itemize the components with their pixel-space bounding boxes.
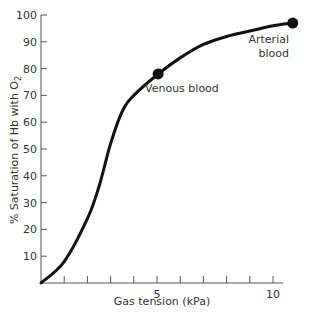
svg-text:% Saturation of Hb with O2: % Saturation of Hb with O2 — [8, 76, 23, 224]
y-tick-label: 70 — [23, 89, 37, 102]
y-tick-label: 60 — [23, 116, 37, 129]
y-tick-label: 10 — [23, 250, 37, 263]
arterial-point-marker — [287, 18, 298, 29]
y-axis-label-sub: 2 — [14, 76, 23, 81]
y-tick-label: 20 — [23, 223, 37, 236]
y-tick-label: 90 — [23, 36, 37, 49]
y-tick-label: 50 — [23, 143, 37, 156]
x-tick-label: 10 — [266, 288, 280, 301]
arterial-label-line1: Arterial — [248, 33, 289, 46]
y-tick-label: 40 — [23, 170, 37, 183]
y-tick-label: 30 — [23, 197, 37, 210]
y-tick-label: 100 — [16, 9, 37, 22]
axes — [41, 15, 283, 283]
y-tick-label: 80 — [23, 63, 37, 76]
y-axis-label: % Saturation of Hb with O2 — [8, 76, 23, 224]
x-axis-label: Gas tension (kPa) — [114, 295, 210, 308]
oxygen-dissociation-chart: 102030405060708090100 510 Venous blood A… — [0, 0, 309, 318]
y-axis-label-main: % Saturation of Hb with O — [8, 81, 21, 224]
dissociation-curve — [41, 23, 293, 283]
venous-point-marker — [153, 68, 164, 79]
venous-label: Venous blood — [145, 82, 219, 95]
arterial-label-line2: blood — [259, 47, 289, 60]
